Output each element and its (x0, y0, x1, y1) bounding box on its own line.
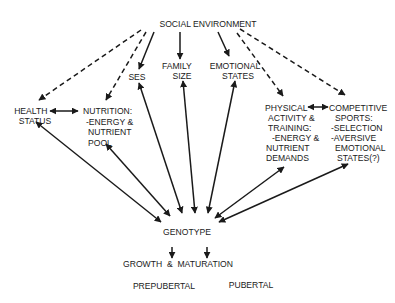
node-competitive-sports: COMPETITIVE SPORTS: -SELECTION -AVERSIVE… (329, 103, 390, 163)
node-genotype: GENOTYPE (163, 227, 211, 237)
node-growth-maturation: GROWTH & MATURATION (123, 259, 233, 269)
node-pubertal: PUBERTAL (229, 280, 274, 290)
edge-emotional-genotype-bidirectional-arrow (208, 81, 235, 213)
node-family-size: FAMILY SIZE (162, 61, 194, 81)
edge-ses-genotype-bidirectional-arrow (139, 83, 182, 213)
growth-determinants-diagram: SOCIAL ENVIRONMENT HEALTH STATUS NUTRITI… (0, 0, 395, 303)
node-physical-activity: PHYSICAL ACTIVITY & TRAINING: -ENERGY & … (265, 103, 322, 163)
edge-social-to-ses-arrow (139, 32, 154, 69)
node-ses: SES (128, 72, 145, 82)
edge-nutrition-genotype-bidirectional-arrow (106, 144, 170, 216)
edge-physical-genotype-bidirectional-arrow (215, 167, 284, 218)
node-health-status: HEALTH STATUS (14, 106, 51, 126)
edge-family-size-genotype-bidirectional-arrow (183, 81, 195, 213)
node-prepubertal: PREPUBERTAL (133, 281, 195, 291)
node-nutrition: NUTRITION: -ENERGY & NUTRIENT POOL (83, 106, 136, 148)
edge-social-to-health-dashed-arrow (39, 30, 141, 100)
edge-competitive-genotype-bidirectional-arrow (219, 164, 348, 222)
node-social-environment: SOCIAL ENVIRONMENT (159, 19, 257, 29)
node-emotional-states: EMOTIONAL STATES (210, 61, 263, 81)
edge-social-to-emotional-states-arrow (218, 32, 229, 56)
